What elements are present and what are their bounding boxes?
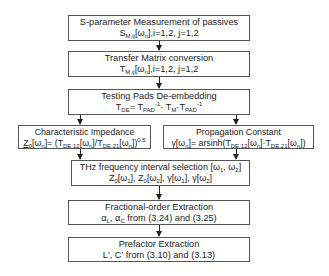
fractional-order-extraction-box: Fractional-order Extraction αL, αC from … — [68, 200, 250, 225]
characteristic-impedance-box: Characteristic Impedance Z0[ωn]= (TDE,12… — [18, 125, 151, 149]
box-formula: Z0[ωn]= (TDE,12[ωn]/TDE,21[ωn])0.5 — [19, 138, 150, 149]
arrow-down — [159, 41, 160, 50]
box-formula: Z0[ω1], Z0[ω2], γ[ω1], γ[ω2] — [72, 173, 249, 184]
box-formula: TM,ij[ωn],i=1,2, j=1,2 — [69, 64, 249, 75]
box-title: Fractional-order Extraction — [69, 202, 249, 213]
box-title: Characteristic Impedance — [19, 127, 150, 138]
arrow-down — [159, 225, 160, 236]
box-title: S-parameter Measurement of passives — [69, 17, 249, 28]
arrow-down — [159, 77, 160, 88]
thz-interval-selection-box: THz frequency interval selection [ω1, ω2… — [71, 160, 250, 186]
box-title: Propagation Constant — [164, 127, 313, 138]
box-title: Prefactor Extraction — [69, 239, 249, 250]
box-formula: αL, αC from (3.24) and (3.25) — [69, 213, 249, 224]
box-title: Transfer Matrix conversion — [69, 53, 249, 64]
box-formula: SM,ij[ωn],i=1,2, j=1,2 — [69, 28, 249, 39]
box-formula: TDE= TPAD-1· TM·TPAD-1 — [69, 102, 249, 113]
box-formula: γ[ωn]= arsinh(TDE,12[ωn]·TDE,21[ωn]) — [164, 138, 313, 149]
arrow-down-right — [236, 149, 237, 159]
transfer-matrix-box: Transfer Matrix conversion TM,ij[ωn],i=1… — [68, 51, 250, 77]
box-formula: L', C' from (3.10) and (3.13) — [69, 250, 249, 261]
s-parameter-measurement-box: S-parameter Measurement of passives SM,i… — [68, 15, 250, 41]
pads-deembedding-box: Testing Pads De-embedding TDE= TPAD-1· T… — [68, 89, 250, 115]
arrow-down-right — [236, 115, 237, 124]
arrow-down-left — [80, 149, 81, 159]
arrow-down-left — [80, 115, 81, 124]
arrow-down — [159, 186, 160, 199]
prefactor-extraction-box: Prefactor Extraction L', C' from (3.10) … — [68, 237, 250, 262]
box-title: THz frequency interval selection [ω1, ω2… — [72, 162, 249, 173]
propagation-constant-box: Propagation Constant γ[ωn]= arsinh(TDE,1… — [163, 125, 314, 149]
